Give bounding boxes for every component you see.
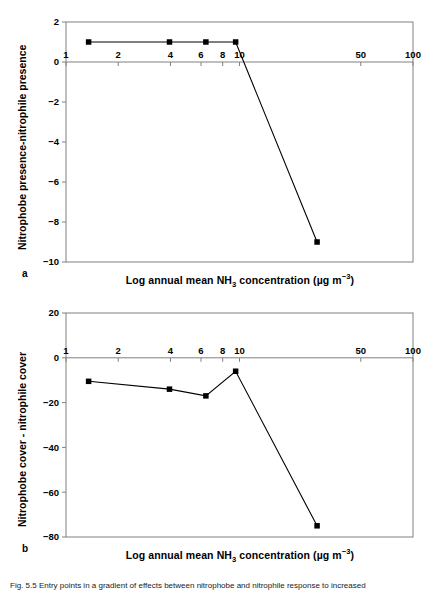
- chart-b-canvas: 124681050100200−20−40−60−80: [0, 295, 436, 570]
- x-tick-label: 8: [220, 345, 225, 356]
- x-tick-label: 2: [116, 49, 121, 60]
- x-tick-label: 50: [355, 49, 366, 60]
- chart-b-y-axis-title: Nitrophobe cover - nitrophile cover: [16, 352, 28, 527]
- y-tick-label: −60: [43, 487, 59, 498]
- x-tick-label: 6: [198, 49, 203, 60]
- chart-b-x-title-before: Log annual mean NH: [126, 549, 232, 561]
- x-tick-label: 50: [355, 345, 366, 356]
- x-tick-label: 8: [220, 49, 225, 60]
- chart-a-x-title-before: Log annual mean NH: [126, 274, 232, 286]
- y-tick-label: −40: [43, 442, 59, 453]
- data-point-marker: [86, 379, 92, 385]
- x-tick-label: 4: [168, 345, 174, 356]
- panel-label-b: b: [22, 543, 28, 554]
- chart-a-x-axis-title: Log annual mean NH3 concentration (µg m−…: [60, 272, 420, 289]
- x-tick-label: 100: [405, 345, 421, 356]
- x-tick-label: 4: [168, 49, 174, 60]
- data-point-marker: [233, 39, 239, 45]
- chart-a-y-axis-title: Nitrophobe presence-nitrophile presence: [16, 45, 28, 250]
- figure-caption: Fig. 5.5 Entry points in a gradient of e…: [10, 581, 430, 594]
- chart-b-x-title-sup: −3: [342, 547, 351, 556]
- y-tick-label: 20: [48, 307, 59, 318]
- figure-caption-text: Fig. 5.5 Entry points in a gradient of e…: [10, 581, 366, 590]
- x-tick-label: 1: [63, 345, 69, 356]
- y-tick-label: −4: [48, 136, 60, 147]
- y-tick-label: 0: [54, 352, 59, 363]
- x-tick-label: 10: [234, 345, 245, 356]
- data-point-marker: [314, 523, 320, 529]
- chart-b-x-title-middle: concentration (µg m: [236, 549, 341, 561]
- y-tick-label: −80: [43, 531, 59, 542]
- series-line: [89, 371, 317, 526]
- y-tick-label: −20: [43, 397, 59, 408]
- chart-b-x-title-after: ): [351, 549, 355, 561]
- series-line: [89, 42, 317, 242]
- y-tick-label: −10: [43, 256, 59, 267]
- y-tick-label: −8: [48, 216, 59, 227]
- y-tick-label: 2: [54, 16, 59, 27]
- data-point-marker: [203, 393, 209, 399]
- y-tick-label: 0: [54, 56, 59, 67]
- data-point-marker: [167, 39, 173, 45]
- chart-a-x-title-sup: −3: [342, 272, 351, 281]
- data-point-marker: [86, 39, 92, 45]
- chart-a-x-title-after: ): [351, 274, 355, 286]
- chart-b-y-axis-title-text: Nitrophobe cover - nitrophile cover: [16, 352, 28, 527]
- chart-a-x-title-middle: concentration (µg m: [236, 274, 341, 286]
- y-tick-label: −6: [48, 176, 59, 187]
- y-tick-label: −2: [48, 96, 59, 107]
- data-point-marker: [203, 39, 209, 45]
- chart-panel-a: 12468105010020−2−4−6−8−10 Nitrophobe pre…: [0, 0, 436, 295]
- figure-root: 12468105010020−2−4−6−8−10 Nitrophobe pre…: [0, 0, 436, 594]
- panel-label-a: a: [22, 268, 28, 279]
- chart-a-y-axis-title-text: Nitrophobe presence-nitrophile presence: [16, 45, 28, 250]
- data-point-marker: [233, 368, 239, 374]
- chart-a-canvas: 12468105010020−2−4−6−8−10: [0, 0, 436, 295]
- x-tick-label: 100: [405, 49, 421, 60]
- x-tick-label: 6: [198, 345, 203, 356]
- data-point-marker: [167, 386, 173, 392]
- chart-b-x-axis-title: Log annual mean NH3 concentration (µg m−…: [60, 547, 420, 564]
- x-tick-label: 1: [63, 49, 69, 60]
- data-point-marker: [314, 239, 320, 245]
- x-tick-label: 2: [116, 345, 121, 356]
- chart-panel-b: 124681050100200−20−40−60−80 Nitrophobe c…: [0, 295, 436, 570]
